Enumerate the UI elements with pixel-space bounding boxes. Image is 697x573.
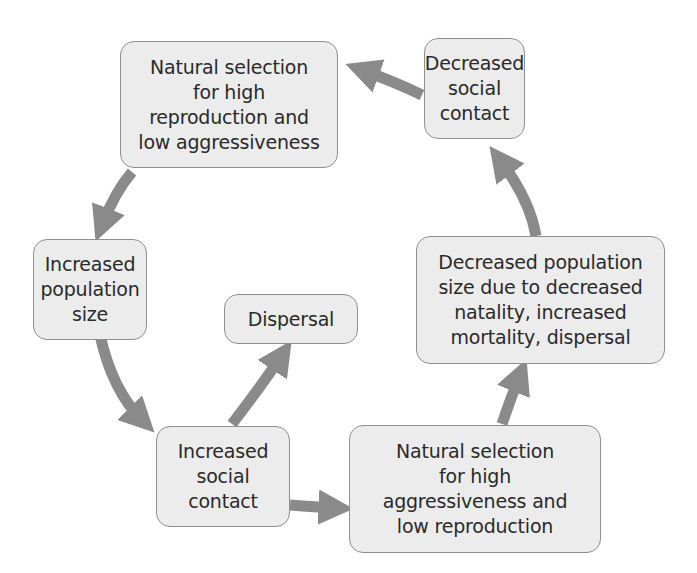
- node-decreased-social-contact: Decreased social contact: [424, 38, 525, 139]
- arrow-decreased-population-to-decreased-contact: [500, 160, 536, 236]
- node-dispersal: Dispersal: [224, 294, 358, 344]
- arrow-population-to-social-contact: [100, 335, 142, 420]
- arrow-social-contact-to-dispersal: [232, 355, 282, 424]
- node-increased-social-contact: Increased social contact: [156, 426, 290, 527]
- node-increased-population-size: Increased population size: [33, 239, 147, 340]
- arrow-social-contact-to-ns-aggressiveness: [290, 505, 336, 508]
- node-ns-high-aggressiveness: Natural selection for high aggressivenes…: [349, 425, 601, 553]
- arrow-ns-reproduction-to-population: [102, 172, 132, 225]
- arrow-decreased-contact-to-ns-reproduction: [362, 70, 422, 95]
- node-decreased-population-size: Decreased population size due to decreas…: [416, 236, 665, 364]
- arrow-ns-aggressiveness-to-decreased-population: [502, 375, 520, 424]
- node-ns-high-reproduction: Natural selection for high reproduction …: [120, 41, 338, 168]
